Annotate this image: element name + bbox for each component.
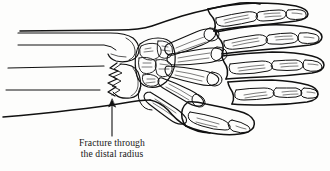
figure-container: Fracture through the distal radius: [0, 0, 330, 171]
caption-line-2: the distal radius: [0, 148, 224, 159]
figure-caption: Fracture through the distal radius: [0, 137, 224, 159]
caption-line-1: Fracture through: [0, 137, 224, 148]
